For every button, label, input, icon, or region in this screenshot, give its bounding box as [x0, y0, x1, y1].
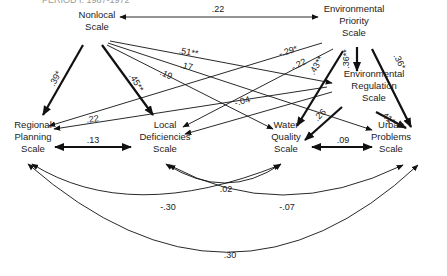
edge-env-regulation-to-local-deficiencies: [185, 92, 332, 134]
edge-label: .19: [158, 67, 174, 81]
edge-label: .30: [224, 250, 237, 260]
edge-label: .22: [212, 4, 225, 14]
edge-label: .13: [87, 135, 100, 145]
node-nonlocal: NonlocalScale: [79, 9, 116, 32]
edge-label: .51**: [178, 45, 199, 58]
node-label-line: Priority: [339, 15, 369, 26]
edge-labels-layer: .22.39*.45**.51**.17.19-.29*-.22.36**.43…: [47, 4, 408, 260]
edge-label: .43**: [307, 54, 326, 76]
edge-label: .17: [179, 60, 193, 73]
node-label-line: Problems: [371, 131, 411, 142]
node-label-line: Nonlocal: [79, 9, 116, 20]
diagram-title: PERIOD I: 1967-1972: [42, 0, 130, 5]
edge-label: -.22: [289, 56, 307, 72]
node-urban-problems: UrbanProblemsScale: [371, 119, 411, 154]
edge-env-priority-to-local-deficiencies: [183, 49, 333, 127]
node-water-quality: WaterQualityScale: [271, 119, 301, 154]
edge-local-deficiencies-to-water-quality: [166, 164, 281, 183]
edge-label: -.29*: [277, 43, 299, 59]
edge-label: -.07: [279, 202, 295, 212]
node-regional-planning: RegionalPlanningScale: [14, 119, 52, 154]
path-diagram: PERIOD I: 1967-1972 .22.39*.45**.51**.17…: [0, 0, 447, 276]
edge-label: -.04: [233, 94, 251, 108]
node-label-line: Quality: [271, 131, 301, 142]
node-label-line: Scale: [85, 21, 109, 32]
node-label-line: Local: [154, 119, 177, 130]
node-label-line: Regional: [14, 119, 52, 130]
node-label-line: Scale: [21, 143, 45, 154]
node-label-line: Urban: [378, 119, 404, 130]
edge-label: .02: [220, 184, 233, 194]
node-local-deficiencies: LocalDeficienciesScale: [139, 119, 190, 154]
edge-label: .22: [86, 113, 100, 125]
node-label-line: Scale: [379, 143, 403, 154]
edge-regional-planning-to-urban-problems: [28, 164, 418, 252]
node-label-line: Water: [274, 119, 299, 130]
node-label-line: Deficiencies: [139, 131, 190, 142]
node-label-line: Environmental: [344, 68, 405, 79]
edge-regional-planning-to-water-quality: [32, 164, 280, 195]
node-label-line: Scale: [274, 143, 298, 154]
nodes-layer: NonlocalScaleEnvironmentalPriorityScaleE…: [14, 3, 411, 154]
edge-label: -.30: [160, 202, 176, 212]
edge-local-deficiencies-to-urban-problems: [169, 165, 403, 195]
node-label-line: Scale: [342, 27, 366, 38]
edge-label: .09: [337, 135, 350, 145]
node-label-line: Scale: [153, 143, 177, 154]
edge-label: .36**: [341, 49, 351, 69]
node-label-line: Planning: [15, 131, 52, 142]
node-label-line: Environmental: [324, 3, 385, 14]
node-label-line: Regulation: [351, 80, 396, 91]
node-env-priority: EnvironmentalPriorityScale: [324, 3, 385, 38]
node-label-line: Scale: [362, 92, 386, 103]
